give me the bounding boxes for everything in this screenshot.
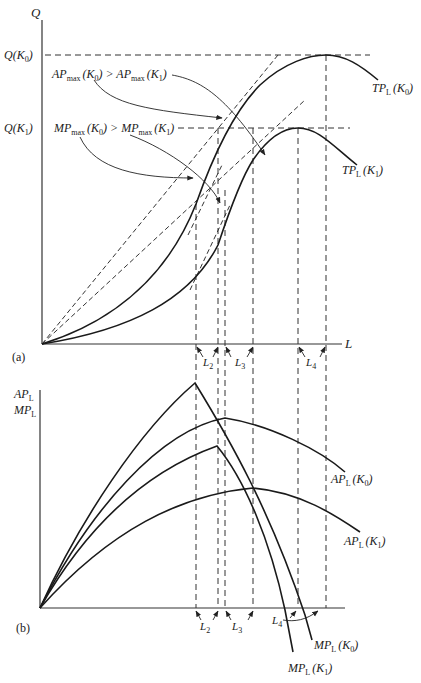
l3-label-a: L3 (234, 356, 245, 371)
ray-ap-k0 (42, 55, 278, 344)
panel-b-tag: (b) (16, 621, 30, 635)
mp-k1-arrow (130, 135, 220, 203)
q-axis-label: Q (31, 5, 41, 20)
ap-max-annotation: APmax(K0) > APmax(K1) (51, 67, 167, 83)
mp-max-annotation: MPmax(K0) > MPmax(K1) (53, 121, 174, 137)
panel-a-tag: (a) (12, 350, 25, 364)
ap-axis-label: APL (13, 387, 34, 403)
panel-b: APL MPL (b) APL(K0) APL(K1) MPL(K0) MPL(… (13, 383, 386, 677)
ap-k0-label: APL(K0) (330, 472, 373, 488)
mp-k0-label: MPL(K0) (313, 638, 358, 654)
mp-k0-curve (40, 383, 312, 640)
mp-axis-label: MPL (13, 403, 36, 419)
q-k1-label: Q(K1) (4, 121, 33, 137)
tp-k1-curve (42, 128, 357, 344)
l2-label-a: L2 (202, 356, 213, 371)
l-marker-arrows-b (196, 611, 318, 621)
panel-a: Q L (a) Q(K0) Q(K1) APmax(K0) > APmax(K1… (4, 5, 413, 608)
projection-lines (196, 55, 326, 608)
tangent-mp-k0 (188, 165, 222, 235)
l2-label-b: L2 (199, 620, 210, 635)
mp-k1-label: MPL(K1) (287, 661, 332, 677)
mp-k0-arrow (80, 137, 193, 178)
tp-k0-curve (42, 55, 378, 344)
ap-k0-arrow (94, 80, 222, 118)
tp-k0-label: TPL(K0) (372, 81, 413, 97)
l4-label-b: L4 (271, 614, 282, 629)
ap-k1-curve (40, 488, 360, 608)
l-axis-label-a: L (344, 336, 352, 351)
l3-label-b: L3 (231, 620, 242, 635)
tp-k1-label: TPL(K1) (342, 163, 383, 179)
l4-label-a: L4 (305, 356, 316, 371)
ap-k1-label: APL(K1) (343, 534, 386, 550)
ap-k0-curve (40, 418, 345, 608)
mp-k1-curve (40, 446, 293, 652)
production-function-diagram: Q L (a) Q(K0) Q(K1) APmax(K0) > APmax(K1… (0, 0, 421, 683)
q-k0-label: Q(K0) (4, 48, 33, 64)
